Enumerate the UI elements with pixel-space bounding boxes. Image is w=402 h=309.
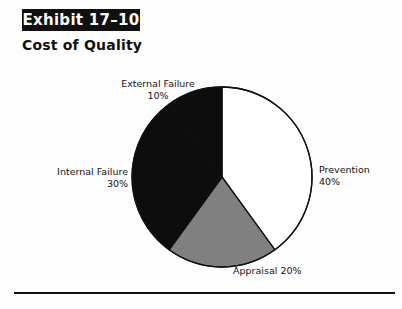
pie-label-prevention-value: 40% (319, 176, 370, 188)
exhibit-figure: Exhibit 17–10 Cost of Quality External F… (0, 0, 402, 309)
pie-label-appraisal-value: 20% (280, 265, 301, 276)
pie-chart (0, 0, 402, 309)
pie-label-external-failure-value: 10% (116, 90, 200, 102)
pie-label-appraisal-name: Appraisal (233, 265, 277, 276)
pie-label-prevention-name: Prevention (319, 164, 370, 176)
pie-chart-svg (0, 0, 402, 309)
pie-label-internal-failure-value: 30% (48, 178, 128, 190)
pie-label-external-failure: External Failure 10% (116, 78, 200, 101)
pie-label-external-failure-name: External Failure (116, 78, 200, 90)
pie-label-internal-failure: Internal Failure 30% (48, 166, 128, 189)
pie-label-prevention: Prevention 40% (319, 164, 370, 187)
pie-label-internal-failure-name: Internal Failure (48, 166, 128, 178)
pie-label-appraisal: Appraisal 20% (233, 265, 302, 277)
bottom-rule (14, 292, 395, 294)
